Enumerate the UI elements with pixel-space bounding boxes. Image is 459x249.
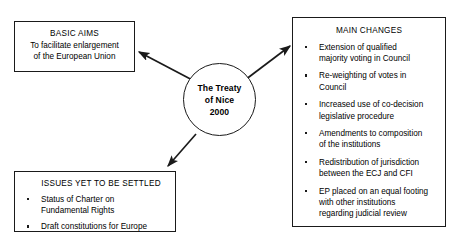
bullet-text-line: between the ECJ and CFI bbox=[319, 168, 439, 179]
node-basic-aims: BASIC AIMS To facilitate enlargement of … bbox=[14, 21, 135, 72]
bullet-item: Amendments to compositionof the institut… bbox=[299, 128, 439, 151]
node-issues-yet-to-be-settled: ISSUES YET TO BE SETTLED Status of Chart… bbox=[14, 171, 176, 232]
node-treaty-of-nice: The Treaty of Nice 2000 bbox=[183, 63, 256, 136]
circle-line-3: 2000 bbox=[210, 106, 230, 118]
node-main-changes: MAIN CHANGES Extension of qualifiedmajor… bbox=[292, 17, 446, 227]
basic-aims-line-1: To facilitate enlargement bbox=[21, 40, 128, 52]
arrow-to-main-changes bbox=[245, 46, 290, 80]
bullet-item: Extension of qualifiedmajority voting in… bbox=[299, 42, 439, 65]
issues-bullet-list: Status of Charter onFundamental RightsDr… bbox=[21, 194, 169, 233]
bullet-text-line: Council bbox=[319, 82, 439, 93]
bullet-text-line: regarding judicial review bbox=[319, 208, 439, 219]
circle-line-1: The Treaty bbox=[198, 82, 242, 94]
bullet-text-line: with other institutions bbox=[319, 197, 439, 208]
bullet-text-line: Draft constitutions for Europe bbox=[41, 221, 169, 232]
bullet-text-line: Status of Charter on bbox=[41, 194, 169, 205]
bullet-point-icon bbox=[305, 46, 307, 48]
bullet-text-line: Extension of qualified bbox=[319, 42, 439, 53]
bullet-point-icon bbox=[305, 161, 307, 163]
bullet-item: Draft constitutions for Europe bbox=[21, 221, 169, 232]
bullet-item: EP placed on an equal footingwith other … bbox=[299, 186, 439, 220]
bullet-item: Status of Charter onFundamental Rights bbox=[21, 194, 169, 217]
basic-aims-line-2: of the European Union bbox=[21, 51, 128, 63]
main-changes-bullet-list: Extension of qualifiedmajority voting in… bbox=[299, 42, 439, 220]
bullet-point-icon bbox=[305, 132, 307, 134]
bullet-text-line: EP placed on an equal footing bbox=[319, 186, 439, 197]
bullet-text-line: legislative procedure bbox=[319, 111, 439, 122]
main-changes-title: MAIN CHANGES bbox=[299, 25, 439, 37]
arrow-to-issues bbox=[168, 134, 196, 166]
bullet-point-icon bbox=[305, 103, 307, 105]
issues-title: ISSUES YET TO BE SETTLED bbox=[21, 178, 169, 190]
bullet-item: Re-weighting of votes inCouncil bbox=[299, 70, 439, 93]
circle-line-2: of Nice bbox=[205, 94, 234, 106]
bullet-text-line: majority voting in Council bbox=[319, 53, 439, 64]
bullet-point-icon bbox=[27, 225, 29, 227]
bullet-text-line: Amendments to composition bbox=[319, 128, 439, 139]
bullet-text-line: Fundamental Rights bbox=[41, 205, 169, 216]
bullet-text-line: Redistribution of jurisdiction bbox=[319, 157, 439, 168]
bullet-point-icon bbox=[27, 198, 29, 200]
bullet-point-icon bbox=[305, 74, 307, 76]
diagram-canvas: BASIC AIMS To facilitate enlargement of … bbox=[0, 0, 459, 249]
bullet-item: Redistribution of jurisdictionbetween th… bbox=[299, 157, 439, 180]
bullet-text-line: Re-weighting of votes in bbox=[319, 70, 439, 81]
bullet-text-line: of the institutions bbox=[319, 139, 439, 150]
basic-aims-title: BASIC AIMS bbox=[21, 28, 128, 40]
bullet-point-icon bbox=[305, 190, 307, 192]
bullet-item: Increased use of co-decisionlegislative … bbox=[299, 99, 439, 122]
bullet-text-line: Increased use of co-decision bbox=[319, 99, 439, 110]
